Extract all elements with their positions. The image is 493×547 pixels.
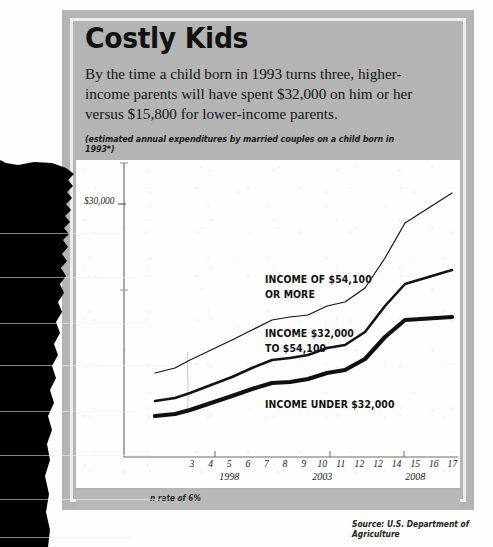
scan-streak-4 — [0, 411, 134, 412]
x-axis-tick-10: 12 — [369, 458, 387, 469]
scan-streak-0 — [0, 233, 118, 234]
x-axis-tick-8: 11 — [332, 458, 350, 469]
scan-streak-7 — [0, 537, 133, 538]
x-axis-tick-0: 3 — [183, 458, 201, 469]
scan-streaks — [0, 215, 175, 547]
scan-streak-1 — [0, 277, 135, 278]
x-axis-year-2003: 2003 — [302, 471, 342, 482]
scan-streak-2 — [0, 323, 152, 324]
x-axis-tick-5: 8 — [276, 458, 294, 469]
x-axis-year-1998: 1998 — [209, 471, 249, 482]
x-axis-tick-7: 10 — [313, 458, 331, 469]
x-axis-tick-6: 9 — [295, 458, 313, 469]
scan-streak-3 — [0, 365, 169, 366]
chart-series-group — [155, 193, 452, 416]
x-axis-tick-12: 15 — [406, 458, 424, 469]
x-axis-tick-11: 14 — [388, 458, 406, 469]
x-axis-tick-2: 5 — [220, 458, 238, 469]
x-axis-tick-9: 12 — [350, 458, 368, 469]
x-axis-tick-13: 16 — [425, 458, 443, 469]
scan-streak-6 — [0, 499, 168, 500]
scan-streak-5 — [0, 455, 151, 456]
x-axis-tick-1: 4 — [202, 458, 220, 469]
series-label-mid-income: INCOME $32,000 TO $54,100 — [265, 326, 354, 357]
series-label-low-income: INCOME UNDER $32,000 — [265, 397, 395, 412]
x-axis-year-2008: 2008 — [395, 471, 435, 482]
x-axis-tick-14: 17 — [443, 458, 461, 469]
x-axis-tick-4: 7 — [257, 458, 275, 469]
scanned-page: Costly Kids By the time a child born in … — [0, 0, 493, 547]
series-label-high-income: INCOME OF $54,100 OR MORE — [265, 272, 372, 303]
x-axis-tick-3: 6 — [239, 458, 257, 469]
